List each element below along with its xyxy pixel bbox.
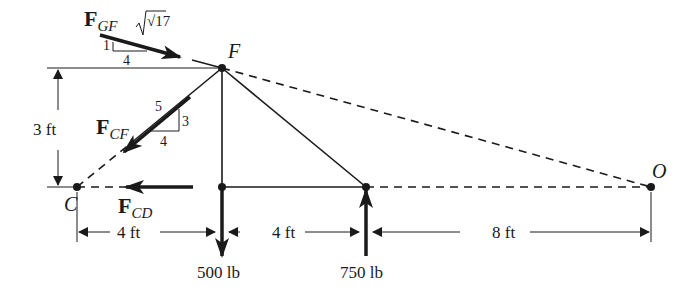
truss-members xyxy=(131,60,366,187)
member-diagonal xyxy=(222,68,366,187)
slope-cf-hyp: 5 xyxy=(155,99,162,114)
labels: F C O FGF √17 1 4 FCF 5 3 4 FCD 500 lb 7… xyxy=(33,6,666,282)
member-cf-stub xyxy=(131,68,222,143)
label-f: F xyxy=(227,40,241,62)
dim-height: 3 ft xyxy=(33,120,56,139)
dim-span-3: 8 ft xyxy=(492,223,515,242)
extension-cf xyxy=(77,143,131,187)
slope-cf-rise: 3 xyxy=(182,114,189,129)
load-500: 500 lb xyxy=(197,263,240,282)
dashed-lines xyxy=(77,68,651,187)
slope-gf-run: 4 xyxy=(123,53,130,68)
slope-gf-rise: 1 xyxy=(103,38,110,53)
arrow-fgf-icon xyxy=(100,35,180,57)
member-gf-stub xyxy=(192,60,222,68)
slope-gf-hyp: √17 xyxy=(147,13,171,29)
truss-diagram: F C O FGF √17 1 4 FCF 5 3 4 FCD 500 lb 7… xyxy=(0,0,697,303)
dim-span-1: 4 ft xyxy=(117,223,140,242)
joint-right xyxy=(362,183,370,191)
point-o xyxy=(647,183,655,191)
dim-span-2: 4 ft xyxy=(272,223,295,242)
line-of-action-gf xyxy=(222,68,651,187)
label-c: C xyxy=(64,193,78,215)
label-o: O xyxy=(652,160,666,182)
joints xyxy=(73,64,655,191)
slope-cf-run: 4 xyxy=(160,134,167,149)
load-750: 750 lb xyxy=(340,263,383,282)
label-fcf: FCF xyxy=(96,114,129,142)
label-fcd: FCD xyxy=(118,193,152,221)
label-fgf: FGF xyxy=(84,6,118,34)
